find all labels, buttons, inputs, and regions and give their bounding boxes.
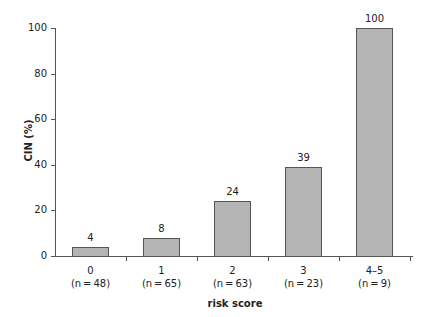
y-tick-label: 80: [17, 68, 47, 79]
category-label: 0(n = 48): [61, 264, 121, 290]
y-tick: [51, 74, 56, 75]
bar-value-label: 8: [142, 223, 182, 234]
category-sample-size: (n = 63): [203, 277, 263, 290]
bar-chart: CIN (%) risk score 020406080100 40(n = 4…: [0, 0, 433, 317]
category-sample-size: (n = 65): [132, 277, 192, 290]
y-tick-label: 60: [17, 113, 47, 124]
category-label: 1(n = 65): [132, 264, 192, 290]
x-tick: [126, 256, 127, 261]
bar: [143, 238, 180, 257]
bar: [214, 201, 251, 257]
bar: [285, 167, 322, 257]
y-tick: [51, 165, 56, 166]
y-tick-label: 20: [17, 204, 47, 215]
category-name: 2: [203, 264, 263, 277]
category-label: 4–5(n = 9): [345, 264, 405, 290]
category-label: 3(n = 23): [274, 264, 334, 290]
x-tick: [268, 256, 269, 261]
y-axis-line: [55, 28, 56, 257]
category-name: 4–5: [345, 264, 405, 277]
x-axis-title: risk score: [195, 298, 275, 309]
bar-value-label: 100: [355, 13, 395, 24]
category-sample-size: (n = 9): [345, 277, 405, 290]
category-sample-size: (n = 23): [274, 277, 334, 290]
bar-value-label: 24: [213, 186, 253, 197]
bar-value-label: 39: [284, 152, 324, 163]
bar-value-label: 4: [71, 232, 111, 243]
category-name: 3: [274, 264, 334, 277]
category-name: 1: [132, 264, 192, 277]
x-tick: [339, 256, 340, 261]
y-tick: [51, 210, 56, 211]
x-tick: [197, 256, 198, 261]
y-tick: [51, 256, 56, 257]
bar: [356, 28, 393, 257]
y-tick-label: 100: [17, 22, 47, 33]
bar: [72, 247, 109, 257]
x-tick: [410, 256, 411, 261]
category-label: 2(n = 63): [203, 264, 263, 290]
category-sample-size: (n = 48): [61, 277, 121, 290]
y-tick-label: 0: [17, 250, 47, 261]
category-name: 0: [61, 264, 121, 277]
y-tick: [51, 28, 56, 29]
y-tick: [51, 119, 56, 120]
y-tick-label: 40: [17, 159, 47, 170]
